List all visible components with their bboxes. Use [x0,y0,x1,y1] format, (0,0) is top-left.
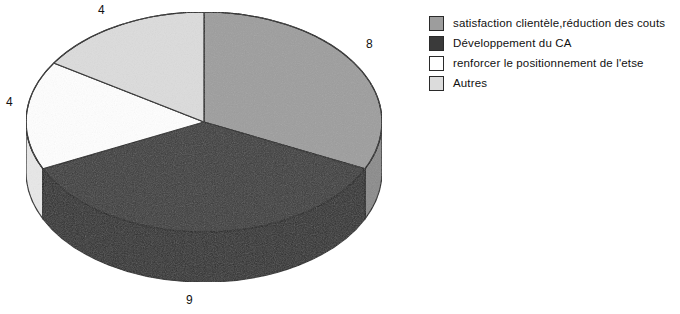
legend-swatch-developpement [429,36,444,51]
legend-swatch-renforcer [429,56,444,71]
legend-label-developpement: Développement du CA [453,37,572,49]
legend-label-satisfaction: satisfaction clientèle,réduction des cou… [453,17,665,29]
slice-label-autres: 4 [98,4,105,16]
legend: satisfaction clientèle,réduction des cou… [429,13,677,93]
legend-label-autres: Autres [453,77,487,89]
pie-slices-group [26,12,382,282]
pie-chart-graphic [0,0,420,314]
legend-item-developpement[interactable]: Développement du CA [429,33,677,53]
legend-swatch-autres [429,76,444,91]
legend-item-satisfaction[interactable]: satisfaction clientèle,réduction des cou… [429,13,677,33]
legend-item-renforcer[interactable]: renforcer le positionnement de l'etse [429,53,677,73]
slice-label-satisfaction: 8 [366,38,373,50]
legend-item-autres[interactable]: Autres [429,73,677,93]
slice-label-renforcer: 4 [6,96,13,108]
slice-label-developpement: 9 [186,294,193,306]
legend-swatch-satisfaction [429,16,444,31]
legend-label-renforcer: renforcer le positionnement de l'etse [453,57,644,69]
pie-chart: 4 8 4 9 [0,0,420,314]
